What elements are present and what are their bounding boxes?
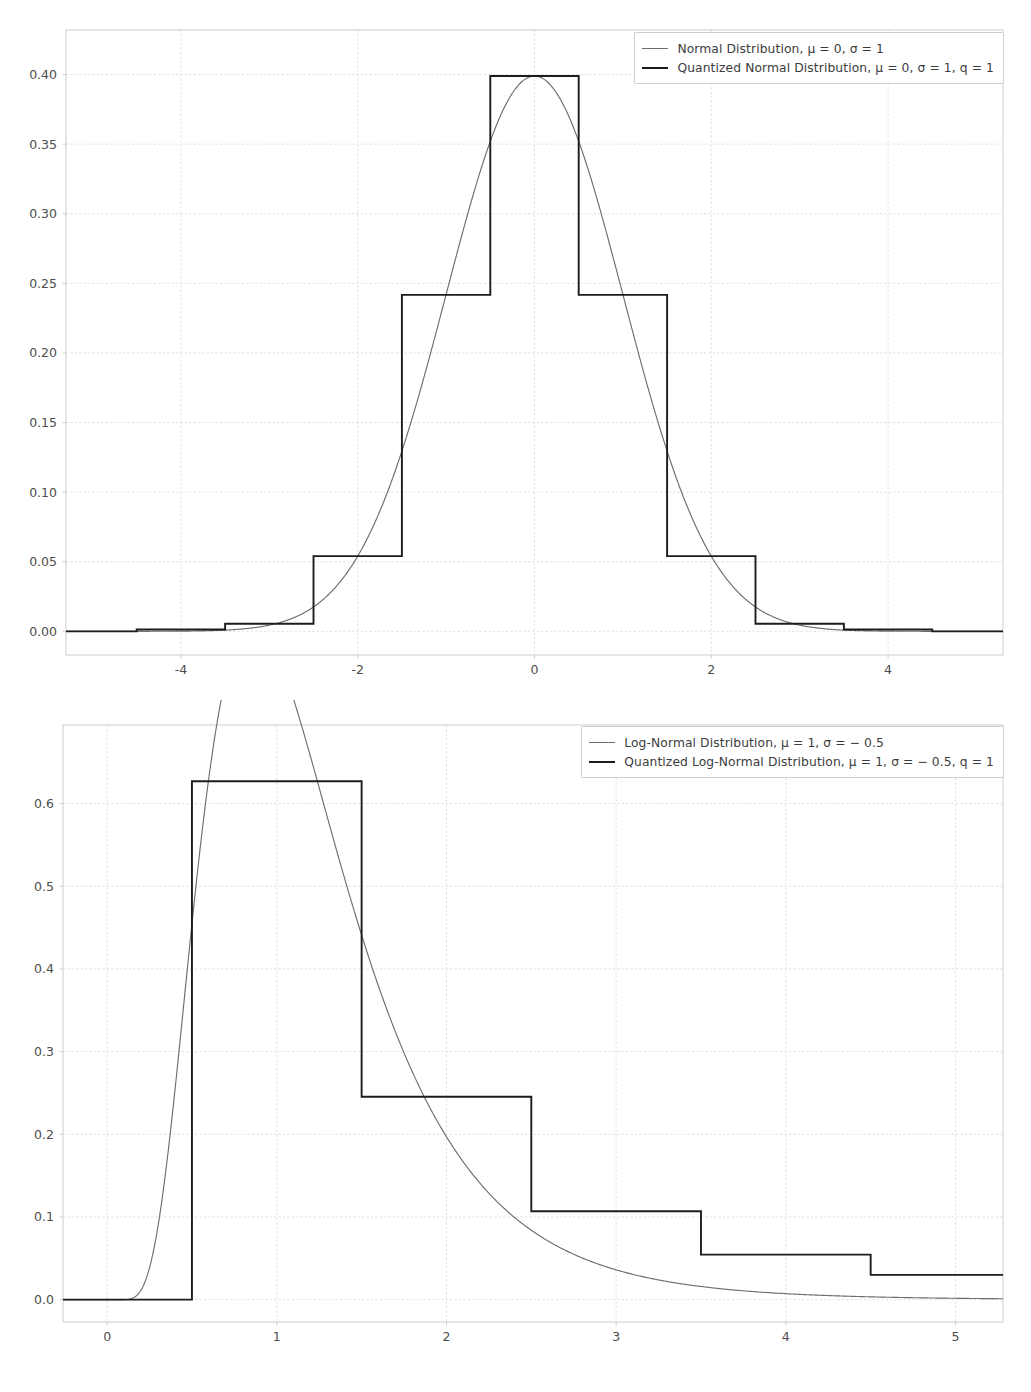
svg-text:0.35: 0.35: [29, 137, 57, 152]
svg-text:0.1: 0.1: [34, 1209, 54, 1224]
svg-text:0.20: 0.20: [29, 345, 57, 360]
legend-item: Quantized Normal Distribution, μ = 0, σ …: [642, 58, 994, 77]
legend-line-swatch-continuous: [642, 48, 668, 49]
chart-panel-normal: -4-20240.000.050.100.150.200.250.300.350…: [0, 0, 1031, 700]
svg-text:2: 2: [707, 662, 715, 677]
legend-item: Log-Normal Distribution, μ = 1, σ = − 0.…: [589, 733, 994, 752]
svg-text:0.10: 0.10: [29, 485, 57, 500]
svg-text:0: 0: [531, 662, 539, 677]
plot-area-lognormal: 0123450.00.10.20.30.40.50.6: [0, 700, 1031, 1392]
svg-text:1: 1: [273, 1329, 281, 1344]
svg-text:0.25: 0.25: [29, 276, 57, 291]
chart-panel-lognormal: 0123450.00.10.20.30.40.50.6 Log-Normal D…: [0, 700, 1031, 1392]
svg-text:0.5: 0.5: [34, 879, 54, 894]
svg-text:0: 0: [103, 1329, 111, 1344]
svg-text:0.4: 0.4: [34, 961, 54, 976]
legend-line-swatch-continuous: [589, 742, 615, 743]
svg-text:0.6: 0.6: [34, 796, 54, 811]
legend-line-swatch-quantized: [642, 67, 668, 69]
svg-text:0.0: 0.0: [34, 1292, 54, 1307]
svg-text:-4: -4: [175, 662, 188, 677]
legend-lognormal: Log-Normal Distribution, μ = 1, σ = − 0.…: [581, 726, 1004, 778]
legend-label-quantized: Quantized Log-Normal Distribution, μ = 1…: [624, 755, 994, 769]
svg-text:3: 3: [612, 1329, 620, 1344]
legend-normal: Normal Distribution, μ = 0, σ = 1 Quanti…: [634, 32, 1004, 84]
svg-text:0.00: 0.00: [29, 624, 57, 639]
svg-text:5: 5: [952, 1329, 960, 1344]
legend-item: Quantized Log-Normal Distribution, μ = 1…: [589, 752, 994, 771]
svg-text:0.3: 0.3: [34, 1044, 54, 1059]
plot-area-normal: -4-20240.000.050.100.150.200.250.300.350…: [0, 0, 1031, 700]
svg-text:0.40: 0.40: [29, 67, 57, 82]
legend-label-continuous: Normal Distribution, μ = 0, σ = 1: [677, 42, 884, 56]
legend-label-continuous: Log-Normal Distribution, μ = 1, σ = − 0.…: [624, 736, 884, 750]
svg-text:0.30: 0.30: [29, 206, 57, 221]
svg-text:2: 2: [442, 1329, 450, 1344]
svg-text:0.2: 0.2: [34, 1127, 54, 1142]
legend-label-quantized: Quantized Normal Distribution, μ = 0, σ …: [677, 61, 994, 75]
figure-canvas: -4-20240.000.050.100.150.200.250.300.350…: [0, 0, 1031, 1392]
svg-text:0.05: 0.05: [29, 554, 57, 569]
legend-item: Normal Distribution, μ = 0, σ = 1: [642, 39, 994, 58]
svg-text:4: 4: [782, 1329, 790, 1344]
svg-text:0.15: 0.15: [29, 415, 57, 430]
svg-text:4: 4: [884, 662, 892, 677]
legend-line-swatch-quantized: [589, 761, 615, 763]
svg-text:-2: -2: [351, 662, 363, 677]
